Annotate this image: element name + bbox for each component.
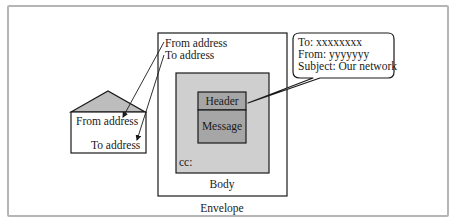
small-envelope-from-label: From address [76, 115, 139, 127]
envelope-to-label: To address [165, 49, 215, 61]
envelope-flap [71, 91, 145, 112]
email-structure-diagram: From address To address From address To … [0, 0, 457, 224]
body-box: Header Message cc: [176, 73, 269, 173]
header-label: Header [205, 95, 238, 107]
envelope-box: From address To address Header Message c… [158, 33, 287, 196]
callout-to-line: To: xxxxxxxx [298, 36, 362, 48]
message-label: Message [202, 120, 242, 133]
small-envelope-to-label: To address [91, 139, 141, 151]
cc-label: cc: [179, 156, 192, 168]
envelope-from-label: From address [165, 37, 228, 49]
body-caption: Body [210, 178, 235, 191]
small-envelope-icon: From address To address [71, 91, 146, 153]
callout-subject-line: Subject: Our network [298, 60, 397, 73]
envelope-caption: Envelope [200, 202, 243, 215]
